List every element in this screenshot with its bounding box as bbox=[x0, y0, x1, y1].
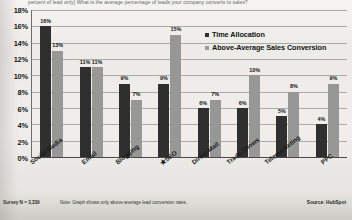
bar-group: 9%15% bbox=[150, 10, 189, 157]
x-tick: Social Media bbox=[31, 158, 71, 184]
y-tick-label: 4% bbox=[18, 121, 28, 130]
bar[interactable]: 11% bbox=[80, 67, 91, 157]
bar-value-label: 9% bbox=[121, 75, 129, 81]
x-tick: Email bbox=[71, 158, 111, 184]
x-axis: Social MediaEmailBlogging★SEODirect Mail… bbox=[31, 158, 347, 184]
chart-source: Source: HubSpot bbox=[307, 200, 346, 205]
scanned-page: percent of lead only) What is the averag… bbox=[0, 0, 352, 220]
survey-question-cropped: percent of lead only) What is the averag… bbox=[28, 0, 346, 7]
bar-value-label: 10% bbox=[249, 67, 260, 73]
bar[interactable]: 11% bbox=[92, 67, 103, 157]
chart-legend: Time AllocationAbove-Average Sales Conve… bbox=[205, 30, 351, 56]
y-tick-label: 18% bbox=[14, 6, 28, 15]
survey-size-label: Survey N = 3,339 bbox=[3, 200, 40, 205]
bar-value-label: 13% bbox=[52, 42, 63, 48]
bar-value-label: 15% bbox=[170, 26, 181, 32]
chart-note: Note: Graph shows only above-average lea… bbox=[60, 200, 187, 205]
y-tick-label: 6% bbox=[18, 104, 28, 113]
bar[interactable]: 9% bbox=[119, 84, 130, 158]
bar-group: 9%7% bbox=[111, 10, 150, 157]
bar-group: 16%13% bbox=[32, 10, 71, 157]
chart-footer: Survey N = 3,339 Note: Graph shows only … bbox=[0, 200, 352, 210]
y-tick-label: 10% bbox=[14, 71, 28, 80]
x-tick: Telemarketing bbox=[268, 158, 308, 184]
legend-item[interactable]: Time Allocation bbox=[205, 30, 351, 39]
square-marker-dark bbox=[205, 33, 209, 37]
bar[interactable]: 4% bbox=[316, 124, 327, 157]
bar[interactable]: 15% bbox=[170, 35, 181, 158]
grouped-bar-chart: 18%16%14%12%10%8%6%4%2%0% 16%13%11%11%9%… bbox=[0, 8, 352, 184]
bar-value-label: 9% bbox=[160, 75, 168, 81]
y-tick-label: 16% bbox=[14, 22, 28, 31]
bar-value-label: 9% bbox=[329, 75, 337, 81]
legend-label: Time Allocation bbox=[212, 30, 265, 39]
y-tick-label: 14% bbox=[14, 38, 28, 47]
y-axis: 18%16%14%12%10%8%6%4%2%0% bbox=[0, 10, 31, 158]
x-tick: PPC bbox=[308, 158, 348, 184]
star-icon: ★ bbox=[158, 156, 168, 167]
bar-value-label: 16% bbox=[40, 18, 51, 24]
bar[interactable]: 9% bbox=[328, 84, 339, 158]
x-tick: Blogging bbox=[110, 158, 150, 184]
bar[interactable]: 9% bbox=[158, 84, 169, 158]
bar-value-label: 11% bbox=[92, 59, 103, 65]
bar-value-label: 7% bbox=[133, 91, 141, 97]
bar-group: 11%11% bbox=[71, 10, 110, 157]
bar-value-label: 8% bbox=[290, 83, 298, 89]
x-tick: Direct Mail bbox=[189, 158, 229, 184]
y-tick-label: 2% bbox=[18, 137, 28, 146]
legend-item[interactable]: Above-Average Sales Conversion bbox=[205, 43, 351, 52]
bar-value-label: 6% bbox=[239, 100, 247, 106]
bar-value-label: 5% bbox=[278, 108, 286, 114]
y-tick-label: 0% bbox=[18, 154, 28, 163]
bar-value-label: 6% bbox=[199, 100, 207, 106]
y-tick-label: 8% bbox=[18, 88, 28, 97]
bar-value-label: 11% bbox=[80, 59, 91, 65]
x-tick: Trade Shows bbox=[229, 158, 269, 184]
y-tick-label: 12% bbox=[14, 55, 28, 64]
bar[interactable]: 16% bbox=[40, 26, 51, 157]
bar-value-label: 7% bbox=[211, 91, 219, 97]
legend-label: Above-Average Sales Conversion bbox=[212, 43, 326, 52]
square-marker-gray bbox=[205, 46, 209, 50]
bar-value-label: 4% bbox=[317, 116, 325, 122]
x-tick: ★SEO bbox=[150, 158, 190, 184]
